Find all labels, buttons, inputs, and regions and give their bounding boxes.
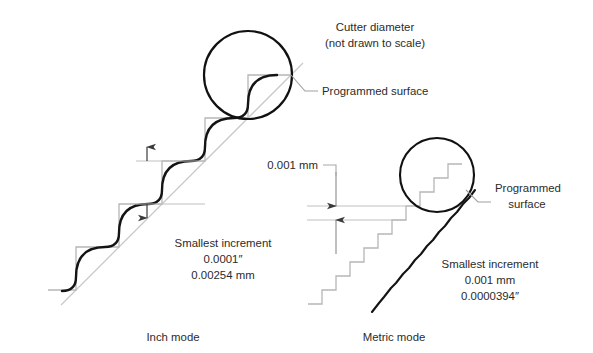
cutter-diameter-label-line1: Cutter diameter — [336, 21, 415, 33]
inch-increment-secondary: 0.00254 mm — [191, 269, 254, 281]
inch-mode-label: Inch mode — [146, 331, 199, 343]
metric-increment-caption: Smallest increment — [442, 258, 540, 270]
inch-increment-primary: 0.0001″ — [204, 253, 243, 265]
metric-mode-label: Metric mode — [363, 331, 426, 343]
inch-increment-caption: Smallest increment — [175, 237, 273, 249]
inch-programmed-surface-label: Programmed surface — [322, 85, 428, 97]
metric-programmed-surface-label-line1: Programmed — [495, 182, 561, 194]
metric-programmed-surface-label-line2: surface — [508, 198, 545, 210]
cutter-diameter-label-line2: (not drawn to scale) — [325, 37, 425, 49]
metric-dimension-label: 0.001 mm — [267, 159, 318, 171]
diagram-canvas: Smallest increment 0.0001″ 0.00254 mm In… — [0, 0, 593, 353]
cnc-resolution-diagram: Smallest increment 0.0001″ 0.00254 mm In… — [0, 0, 593, 353]
metric-increment-primary: 0.001 mm — [465, 274, 516, 286]
metric-increment-secondary: 0.0000394″ — [461, 290, 519, 302]
